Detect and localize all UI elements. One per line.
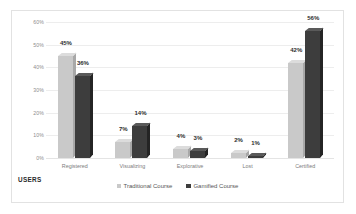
x-axis-tick-label: Certified: [295, 163, 315, 169]
bar-front-face: [115, 142, 130, 158]
y-axis-tick-label: 40%: [33, 64, 44, 70]
bar-value-label: 4%: [177, 133, 186, 139]
bar: 45%: [58, 56, 73, 158]
legend-item[interactable]: Gamified Course: [186, 183, 238, 189]
bar-side-face: [320, 28, 323, 158]
axis-title: USERS: [18, 176, 42, 183]
bar-value-label: 14%: [134, 110, 146, 116]
bar-value-label: 45%: [60, 40, 72, 46]
bar: 42%: [288, 63, 303, 158]
bar: 36%: [75, 76, 90, 158]
bar-group: 2%1%: [219, 22, 277, 158]
y-axis-tick-label: 30%: [33, 87, 44, 93]
bar-value-label: 36%: [77, 60, 89, 66]
x-axis: RegisteredVisualizingExplorativeLostCert…: [46, 163, 334, 175]
bar-front-face: [305, 31, 320, 158]
square-swatch-dark-icon: [186, 184, 191, 189]
bar-side-face: [90, 73, 93, 158]
bar: 4%: [173, 149, 188, 158]
bar-value-label: 2%: [234, 137, 243, 143]
bar-value-label: 7%: [119, 126, 128, 132]
bar: 3%: [190, 151, 205, 158]
bar-value-label: 1%: [251, 140, 260, 146]
bar: 1%: [248, 156, 263, 158]
bar: 56%: [305, 31, 320, 158]
chart-legend: Traditional CourseGamified Course: [12, 183, 343, 189]
legend-label: Gamified Course: [193, 183, 238, 189]
bar: 14%: [132, 126, 147, 158]
bar-front-face: [173, 149, 188, 158]
bar: 7%: [115, 142, 130, 158]
bar-group: 42%56%: [276, 22, 334, 158]
y-axis-tick-label: 20%: [33, 110, 44, 116]
bar-front-face: [190, 151, 205, 158]
bar-front-face: [58, 56, 73, 158]
bar-front-face: [231, 153, 246, 158]
bar-value-label: 3%: [194, 135, 203, 141]
x-axis-tick-label: Visualizing: [120, 163, 146, 169]
bar-front-face: [248, 156, 263, 158]
bars-layer: 45%36%7%14%4%3%2%1%42%56%: [46, 22, 334, 158]
y-axis-tick-label: 0%: [36, 155, 44, 161]
legend-label: Traditional Course: [124, 183, 173, 189]
x-axis-tick-label: Lost: [242, 163, 252, 169]
x-axis-tick-label: Registered: [62, 163, 88, 169]
bar-front-face: [132, 126, 147, 158]
x-axis-tick-label: Explorative: [177, 163, 204, 169]
chart-frame: 0%10%20%30%40%50%60% 45%36%7%14%4%3%2%1%…: [11, 10, 344, 203]
bar-front-face: [75, 76, 90, 158]
y-axis-tick-label: 50%: [33, 42, 44, 48]
y-axis-tick-label: 10%: [33, 132, 44, 138]
bar: 2%: [231, 153, 246, 158]
bar-front-face: [288, 63, 303, 158]
legend-item[interactable]: Traditional Course: [117, 183, 173, 189]
square-swatch-light-icon: [117, 184, 122, 189]
bar-top-face: [248, 153, 267, 156]
bar-side-face: [147, 123, 150, 158]
bar-group: 45%36%: [46, 22, 104, 158]
bar-value-label: 56%: [307, 15, 319, 21]
bar-value-label: 42%: [290, 47, 302, 53]
y-axis-tick-label: 60%: [33, 19, 44, 25]
y-axis: 0%10%20%30%40%50%60%: [16, 22, 44, 158]
bar-group: 7%14%: [104, 22, 162, 158]
bar-group: 4%3%: [161, 22, 219, 158]
